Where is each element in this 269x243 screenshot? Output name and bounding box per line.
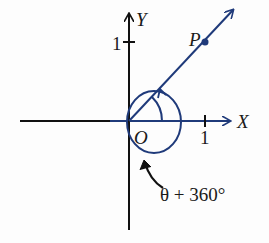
pointer-arrow-head-icon [140, 160, 151, 170]
angle-label: θ + 360° [160, 185, 225, 204]
x-tick-label: 1 [200, 128, 210, 147]
y-axis-label: Y [136, 10, 147, 29]
point-label: P [189, 30, 201, 49]
origin-label: O [134, 128, 148, 147]
theta-arc [152, 97, 162, 121]
x-axis-label: X [237, 112, 249, 131]
diagram-canvas [0, 0, 269, 243]
point-p [202, 39, 209, 46]
coterminal-angle-diagram: Y 1 P X O 1 θ + 360° [0, 0, 269, 243]
y-tick-label: 1 [112, 34, 122, 53]
